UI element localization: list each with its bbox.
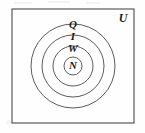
set-label-q: Q	[66, 19, 80, 30]
universal-set-label: U	[116, 12, 130, 24]
euler-diagram-figure: U Q I W N	[0, 0, 145, 133]
set-label-i: I	[66, 31, 80, 42]
set-label-w: W	[66, 43, 80, 54]
set-label-n: N	[66, 60, 80, 71]
